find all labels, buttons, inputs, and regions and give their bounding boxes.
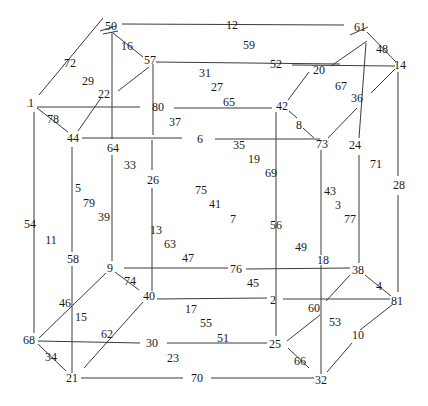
node-label-25: 25 <box>269 338 281 350</box>
node-label-72: 72 <box>64 57 76 69</box>
node-label-45: 45 <box>247 277 259 289</box>
node-label-56: 56 <box>270 219 282 231</box>
node-label-6: 6 <box>197 133 203 145</box>
node-label-4: 4 <box>376 280 382 292</box>
edge <box>288 72 309 100</box>
edge <box>292 65 395 66</box>
node-label-77: 77 <box>344 213 356 225</box>
node-label-37: 37 <box>169 116 181 128</box>
node-label-38: 38 <box>352 264 364 276</box>
nested-cube-diagram: 5012611657594872521431202967272236180654… <box>0 0 428 406</box>
node-label-36: 36 <box>351 92 363 104</box>
node-label-41: 41 <box>209 198 221 210</box>
node-label-47: 47 <box>182 252 194 264</box>
node-label-66: 66 <box>294 355 306 367</box>
node-label-42: 42 <box>276 100 288 112</box>
node-label-40: 40 <box>143 290 155 302</box>
node-label-44: 44 <box>67 132 79 144</box>
node-label-18: 18 <box>317 254 329 266</box>
edge <box>78 98 101 131</box>
node-label-46: 46 <box>59 297 71 309</box>
node-label-13: 13 <box>150 224 162 236</box>
node-label-34: 34 <box>45 351 57 363</box>
node-label-32: 32 <box>315 374 327 386</box>
node-label-53: 53 <box>329 316 341 328</box>
node-label-74: 74 <box>124 275 136 287</box>
edge <box>84 302 143 368</box>
node-label-52: 52 <box>270 58 282 70</box>
node-label-71: 71 <box>370 158 382 170</box>
node-label-39: 39 <box>98 211 110 223</box>
node-label-67: 67 <box>335 80 347 92</box>
edge <box>331 41 367 66</box>
node-label-3: 3 <box>335 199 341 211</box>
node-label-17: 17 <box>185 303 197 315</box>
node-label-78: 78 <box>47 113 59 125</box>
node-label-64: 64 <box>107 142 119 154</box>
node-label-81: 81 <box>391 295 403 307</box>
node-label-24: 24 <box>349 139 361 151</box>
node-label-50: 50 <box>105 20 117 32</box>
node-label-79: 79 <box>83 197 95 209</box>
edge <box>326 275 350 301</box>
edge <box>287 315 320 341</box>
edge <box>328 108 357 138</box>
node-label-20: 20 <box>313 64 325 76</box>
node-label-28: 28 <box>393 179 405 191</box>
node-label-10: 10 <box>352 329 364 341</box>
node-label-68: 68 <box>23 334 35 346</box>
node-label-51: 51 <box>217 332 229 344</box>
node-label-43: 43 <box>324 185 336 197</box>
node-label-54: 54 <box>24 218 36 230</box>
node-label-73: 73 <box>316 138 328 150</box>
edge <box>246 268 350 269</box>
node-label-59: 59 <box>243 39 255 51</box>
node-label-29: 29 <box>82 75 94 87</box>
edge <box>303 128 314 138</box>
node-label-7: 7 <box>230 213 236 225</box>
edge <box>360 305 392 330</box>
node-label-76: 76 <box>230 263 242 275</box>
node-label-27: 27 <box>211 81 223 93</box>
edge <box>371 69 395 93</box>
edge <box>327 343 352 372</box>
node-label-8: 8 <box>296 119 302 131</box>
node-label-58: 58 <box>67 253 79 265</box>
node-label-75: 75 <box>195 184 207 196</box>
node-label-12: 12 <box>226 19 238 31</box>
node-label-65: 65 <box>223 96 235 108</box>
node-label-26: 26 <box>147 174 159 186</box>
node-label-55: 55 <box>200 317 212 329</box>
node-label-62: 62 <box>101 328 113 340</box>
node-label-31: 31 <box>199 67 211 79</box>
node-label-21: 21 <box>66 372 78 384</box>
node-label-61: 61 <box>354 21 366 33</box>
node-label-19: 19 <box>248 153 260 165</box>
node-label-63: 63 <box>164 238 176 250</box>
node-label-22: 22 <box>98 88 110 100</box>
node-label-80: 80 <box>152 101 164 113</box>
node-label-9: 9 <box>107 262 113 274</box>
node-label-30: 30 <box>146 337 158 349</box>
node-label-15: 15 <box>75 311 87 323</box>
node-label-14: 14 <box>394 59 406 71</box>
edge <box>118 67 149 91</box>
node-label-49: 49 <box>295 241 307 253</box>
node-label-33: 33 <box>124 159 136 171</box>
node-label-16: 16 <box>121 40 133 52</box>
edge <box>38 341 140 343</box>
node-label-48: 48 <box>376 43 388 55</box>
node-label-70: 70 <box>191 372 203 384</box>
node-label-60: 60 <box>308 302 320 314</box>
node-label-35: 35 <box>233 139 245 151</box>
node-label-69: 69 <box>265 167 277 179</box>
node-label-2: 2 <box>270 294 276 306</box>
node-label-1: 1 <box>28 97 34 109</box>
node-label-5: 5 <box>75 182 81 194</box>
node-label-57: 57 <box>144 54 156 66</box>
node-label-23: 23 <box>167 352 179 364</box>
edge <box>289 111 297 118</box>
edge <box>157 298 267 299</box>
node-label-11: 11 <box>45 234 57 246</box>
